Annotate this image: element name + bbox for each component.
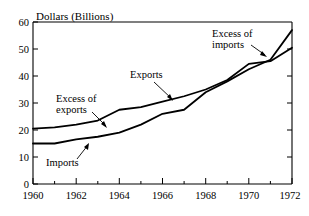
x-tick-label: 1964: [109, 190, 131, 201]
annotation-excess-of-imports-line2: imports: [212, 39, 244, 50]
y-tick-label: 30: [19, 98, 30, 109]
x-axis-tick-labels: 1960 1962 1964 1966 1968 1970 1972: [23, 190, 301, 201]
y-axis-ticks: [33, 22, 38, 184]
x-tick-label: 1966: [152, 190, 173, 201]
y-tick-label: 20: [19, 125, 30, 136]
x-tick-label: 1970: [238, 190, 259, 201]
x-axis-ticks: [33, 178, 292, 184]
annotation-excess-of-exports-line1: Excess of: [56, 93, 97, 104]
annotation-exports: Exports: [130, 69, 173, 101]
annotation-excess-of-exports-line2: exports: [56, 104, 87, 115]
trade-balance-line-chart: Dollars (Billions) 60: [0, 0, 309, 216]
x-tick-label: 1972: [280, 190, 301, 201]
x-tick-label: 1968: [195, 190, 216, 201]
annotation-excess-of-imports-line1: Excess of: [212, 28, 253, 39]
series-line-imports: [33, 30, 292, 143]
chart-page: Dollars (Billions) 60: [0, 0, 309, 216]
annotation-excess-of-imports: Excess of imports: [212, 28, 267, 57]
y-tick-label: 40: [19, 71, 30, 82]
annotation-exports-label: Exports: [130, 69, 163, 80]
y-tick-label: 10: [19, 152, 30, 163]
y-tick-label: 0: [24, 179, 29, 190]
y-axis-title: Dollars (Billions): [36, 10, 114, 23]
x-tick-label: 1962: [66, 190, 87, 201]
x-tick-label: 1960: [23, 190, 44, 201]
annotation-imports: Imports: [46, 143, 89, 168]
y-axis-tick-labels: 60 50 40 30 20 10 0: [19, 17, 30, 190]
y-tick-label: 60: [19, 17, 30, 28]
series-line-exports: [33, 48, 292, 129]
right-axis-ticks: [287, 49, 292, 157]
y-tick-label: 50: [19, 44, 30, 55]
annotation-imports-label: Imports: [46, 157, 79, 168]
